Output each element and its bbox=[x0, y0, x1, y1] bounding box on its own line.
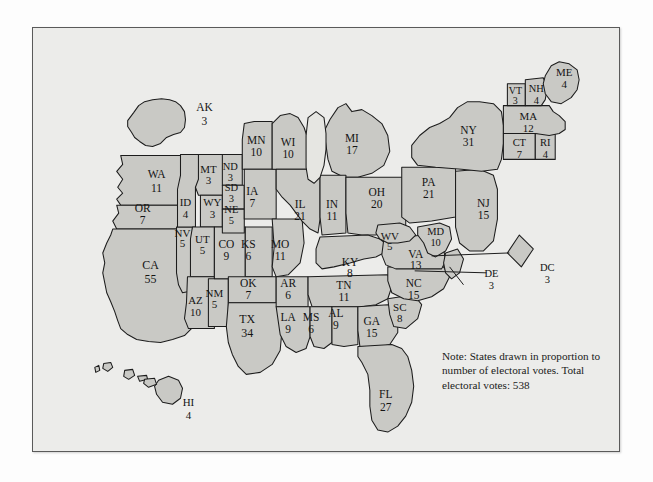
state-votes-sc: 8 bbox=[397, 312, 403, 324]
islet-niihau bbox=[95, 365, 100, 372]
state-abbr-hi: HI bbox=[183, 396, 195, 408]
state-votes-ct: 7 bbox=[517, 149, 522, 160]
state-votes-or: 7 bbox=[140, 214, 146, 226]
state-shape-hi[interactable] bbox=[155, 376, 183, 404]
state-votes-ma: 12 bbox=[523, 122, 534, 134]
state-abbr-ri: RI bbox=[540, 137, 551, 148]
state-votes-ar: 6 bbox=[285, 289, 291, 301]
state-abbr-de: DE bbox=[484, 268, 498, 279]
state-abbr-ak: AK bbox=[196, 101, 213, 113]
state-votes-tn: 11 bbox=[338, 291, 349, 303]
state-votes-mt: 3 bbox=[206, 174, 212, 186]
state-shape-ny[interactable] bbox=[412, 102, 504, 172]
state-votes-va: 13 bbox=[410, 260, 422, 272]
state-votes-nv: 5 bbox=[180, 237, 186, 249]
state-abbr-ca: CA bbox=[142, 258, 159, 272]
state-votes-co: 9 bbox=[223, 250, 229, 262]
state-votes-nm: 5 bbox=[212, 298, 218, 310]
hawaii-islets-layer bbox=[95, 362, 157, 387]
state-abbr-ny: NY bbox=[460, 124, 477, 136]
state-abbr-az: AZ bbox=[188, 294, 203, 306]
state-abbr-ma: MA bbox=[519, 110, 537, 122]
state-votes-nj: 15 bbox=[478, 209, 490, 221]
state-shape-co[interactable] bbox=[214, 227, 245, 279]
state-votes-mi: 17 bbox=[346, 144, 358, 156]
state-shape-dc[interactable] bbox=[507, 235, 533, 267]
islet-kauai bbox=[103, 362, 113, 371]
state-votes-la: 9 bbox=[285, 323, 291, 335]
state-votes-ky: 8 bbox=[347, 267, 353, 279]
state-abbr-md: MD bbox=[427, 226, 444, 237]
state-votes-ne: 5 bbox=[229, 215, 234, 226]
state-votes-ia: 7 bbox=[249, 197, 255, 209]
state-abbr-or: OR bbox=[135, 202, 151, 214]
state-abbr-nh: NH bbox=[529, 83, 545, 94]
state-abbr-wa: WA bbox=[148, 168, 167, 180]
state-abbr-mi: MI bbox=[345, 132, 359, 144]
state-abbr-id: ID bbox=[180, 196, 192, 208]
figure-root: AK3WA11OR7CA55NV5ID4MT3WY3UT5AZ10NM5CO9N… bbox=[0, 0, 653, 482]
state-abbr-nd: ND bbox=[223, 161, 239, 172]
state-votes-il: 21 bbox=[294, 210, 306, 222]
state-abbr-co: CO bbox=[218, 238, 234, 250]
state-shape-de[interactable] bbox=[444, 249, 464, 279]
state-abbr-pa: PA bbox=[422, 176, 436, 188]
state-votes-in: 11 bbox=[326, 210, 337, 222]
state-votes-ny: 31 bbox=[463, 136, 475, 148]
state-votes-wv: 5 bbox=[387, 240, 393, 252]
state-votes-nh: 4 bbox=[534, 95, 540, 106]
map-frame: AK3WA11OR7CA55NV5ID4MT3WY3UT5AZ10NM5CO9N… bbox=[32, 27, 620, 452]
state-abbr-ok: OK bbox=[240, 277, 257, 289]
state-votes-az: 10 bbox=[190, 306, 201, 318]
state-votes-oh: 20 bbox=[371, 198, 383, 210]
state-abbr-ga: GA bbox=[364, 315, 381, 327]
state-abbr-nc: NC bbox=[406, 277, 422, 289]
state-votes-me: 4 bbox=[561, 78, 567, 90]
state-abbr-sd: SD bbox=[225, 182, 239, 193]
state-shape-ak[interactable] bbox=[128, 99, 186, 147]
state-votes-hi: 4 bbox=[186, 409, 192, 421]
state-votes-dc: 3 bbox=[545, 274, 550, 285]
state-abbr-va: VA bbox=[408, 248, 424, 260]
state-abbr-al: AL bbox=[328, 307, 343, 319]
state-abbr-ut: UT bbox=[195, 233, 210, 245]
state-abbr-la: LA bbox=[280, 311, 296, 323]
islet-oahu bbox=[124, 369, 135, 379]
state-votes-md: 10 bbox=[430, 237, 440, 248]
state-votes-fl: 27 bbox=[380, 401, 392, 413]
state-abbr-oh: OH bbox=[369, 186, 386, 198]
state-votes-wy: 3 bbox=[210, 208, 216, 220]
state-abbr-ar: AR bbox=[280, 277, 296, 289]
state-votes-wi: 10 bbox=[282, 148, 294, 160]
state-votes-ga: 15 bbox=[366, 327, 378, 339]
state-shape-nj[interactable] bbox=[456, 169, 498, 251]
state-votes-ak: 3 bbox=[202, 115, 208, 127]
state-votes-tx: 34 bbox=[241, 326, 253, 340]
state-abbr-tx: TX bbox=[239, 312, 255, 326]
state-abbr-fl: FL bbox=[379, 388, 392, 400]
state-abbr-nj: NJ bbox=[477, 197, 490, 209]
state-abbr-mn: MN bbox=[247, 134, 265, 146]
state-abbr-ks: KS bbox=[241, 238, 256, 250]
state-votes-ri: 4 bbox=[543, 149, 549, 160]
state-abbr-dc: DC bbox=[540, 262, 555, 273]
state-votes-vt: 3 bbox=[513, 95, 518, 106]
state-votes-id: 4 bbox=[183, 208, 189, 220]
state-votes-ut: 5 bbox=[200, 244, 206, 256]
state-votes-al: 9 bbox=[333, 319, 339, 331]
state-votes-ms: 6 bbox=[308, 323, 314, 335]
lake-michigan bbox=[306, 112, 326, 184]
state-votes-pa: 21 bbox=[423, 188, 435, 200]
state-votes-de: 3 bbox=[489, 280, 494, 291]
state-abbr-ms: MS bbox=[303, 311, 320, 323]
state-abbr-il: IL bbox=[295, 198, 306, 210]
lakes-layer bbox=[306, 112, 326, 184]
state-votes-mn: 10 bbox=[251, 146, 263, 158]
state-abbr-ia: IA bbox=[246, 185, 259, 197]
state-abbr-wy: WY bbox=[203, 196, 221, 208]
state-abbr-wi: WI bbox=[281, 136, 296, 148]
state-abbr-ne: NE bbox=[224, 204, 238, 215]
state-abbr-in: IN bbox=[326, 198, 338, 210]
state-votes-ok: 7 bbox=[245, 289, 251, 301]
state-abbr-mo: MO bbox=[271, 238, 289, 250]
